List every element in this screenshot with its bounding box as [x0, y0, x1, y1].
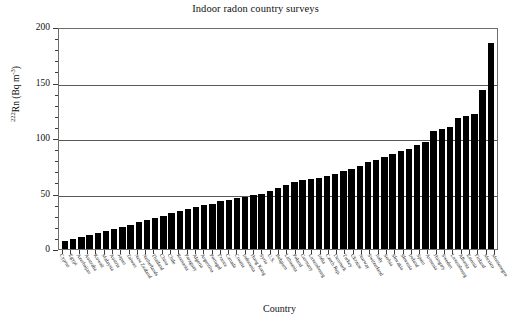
bar: [455, 118, 461, 249]
bar: [422, 142, 428, 249]
bar: [177, 211, 183, 249]
bar: [242, 197, 248, 249]
bar: [357, 166, 363, 249]
bar: [258, 194, 264, 250]
bar: [136, 222, 142, 249]
bar: [340, 171, 346, 249]
bar: [308, 179, 314, 249]
bar: [283, 185, 289, 249]
bar: [275, 188, 281, 249]
y-axis-tick-label: 0: [45, 245, 50, 255]
bar: [234, 198, 240, 249]
bar: [226, 200, 232, 249]
bar: [95, 233, 101, 249]
bar: [373, 160, 379, 249]
bar: [479, 90, 485, 249]
x-axis-label: Country: [0, 303, 511, 314]
bar: [299, 180, 305, 249]
radon-bar-chart-figure: Indoor radon country surveys 222Rn (Bq m…: [0, 0, 511, 327]
bar: [193, 207, 199, 249]
bar: [78, 237, 84, 249]
bar: [168, 213, 174, 249]
bar: [324, 176, 330, 249]
bar: [348, 169, 354, 249]
x-axis-tick-labels: CyprusEgyptAzerbaijanAustraliaKuwaitMala…: [58, 253, 498, 301]
bar: [471, 114, 477, 249]
bar: [103, 231, 109, 249]
chart-title: Indoor radon country surveys: [0, 3, 511, 14]
bar: [127, 225, 133, 249]
bar: [86, 235, 92, 249]
plot-area: [58, 28, 498, 250]
bar: [463, 116, 469, 249]
bar: [291, 182, 297, 249]
y-axis-tick-label: 50: [41, 190, 51, 200]
bar: [447, 127, 453, 249]
bar: [332, 174, 338, 249]
y-axis-tick-label: 100: [36, 134, 50, 144]
bar: [439, 129, 445, 249]
bar: [144, 220, 150, 249]
bar: [160, 216, 166, 249]
bar: [119, 227, 125, 249]
bar: [381, 157, 387, 249]
y-axis-tick-label: 200: [36, 23, 50, 33]
bar: [201, 205, 207, 249]
bar-series: [59, 29, 497, 249]
bar: [185, 209, 191, 249]
y-axis-tick-label: 150: [36, 79, 50, 89]
bar: [316, 178, 322, 249]
bar: [406, 149, 412, 249]
bar: [398, 151, 404, 249]
bar: [152, 218, 158, 249]
bar: [267, 191, 273, 249]
bar: [389, 154, 395, 249]
bar: [488, 43, 494, 249]
bar: [111, 229, 117, 249]
y-axis: 050100150200: [0, 28, 58, 250]
bar: [217, 201, 223, 249]
bar: [62, 241, 68, 249]
bar: [430, 131, 436, 249]
bar: [250, 195, 256, 249]
bar: [365, 162, 371, 249]
bar: [70, 239, 76, 249]
bar: [414, 145, 420, 249]
bar: [209, 204, 215, 250]
